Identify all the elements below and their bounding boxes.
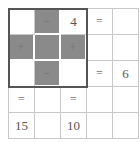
operator-cell-minus: − — [35, 9, 61, 35]
input-cell-r2c0[interactable] — [9, 61, 35, 87]
result-cell-col2: 10 — [61, 113, 87, 139]
blocked-cell-center — [35, 35, 61, 61]
empty-cell — [35, 113, 61, 139]
operator-cell-plus: + — [61, 35, 87, 61]
equals-cell: = — [87, 9, 113, 35]
input-cell-r2c2[interactable] — [61, 61, 87, 87]
math-puzzle-grid: − 4 = + + − = 6 = = 15 10 — [9, 9, 139, 139]
empty-cell — [87, 87, 113, 113]
operator-cell-plus: + — [9, 35, 35, 61]
empty-cell — [113, 35, 139, 61]
equals-cell: = — [9, 87, 35, 113]
result-cell-row2: 6 — [113, 61, 139, 87]
input-cell-r0c0[interactable] — [9, 9, 35, 35]
empty-cell — [113, 87, 139, 113]
result-cell-col0: 15 — [9, 113, 35, 139]
operator-cell-minus: − — [35, 61, 61, 87]
result-cell-row0 — [113, 9, 139, 35]
given-number-cell: 4 — [61, 9, 87, 35]
equals-cell: = — [87, 61, 113, 87]
empty-cell — [87, 35, 113, 61]
equals-cell: = — [61, 87, 87, 113]
empty-cell — [113, 113, 139, 139]
empty-cell — [35, 87, 61, 113]
empty-cell — [87, 113, 113, 139]
